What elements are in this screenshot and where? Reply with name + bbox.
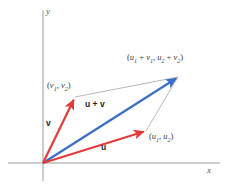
vector-diagram-canvas	[0, 0, 229, 193]
vector-u	[43, 132, 144, 163]
construction-line-u-to-sum	[146, 77, 178, 131]
vector-addition-figure: y x (v1, v2) (u1, u2) (u1 + v1, u2 + v2)…	[0, 0, 229, 193]
x-axis-label: x	[207, 166, 211, 175]
y-axis-label: y	[46, 7, 50, 16]
paren-close: )	[68, 80, 71, 90]
paren-close: )	[171, 131, 174, 141]
paren-close: )	[180, 52, 183, 62]
plus-sign-1: +	[137, 52, 146, 62]
point-label-v-components: (v1, v2)	[47, 81, 71, 92]
point-label-u-components: (u1, u2)	[149, 132, 173, 143]
vector-sum-label: u + v	[85, 100, 105, 109]
point-label-sum-components: (u1 + v1, u2 + v2)	[127, 53, 183, 64]
vector-v-label: v	[46, 119, 51, 128]
vector-u-label: u	[101, 143, 106, 152]
